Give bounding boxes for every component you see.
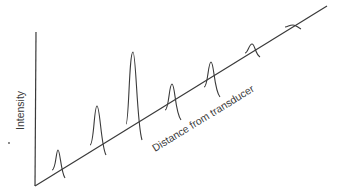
echo-peak-4 xyxy=(165,84,181,120)
stray-mark xyxy=(8,142,10,144)
echo-intensity-diagram: Intensity Distance from transducer xyxy=(0,0,338,193)
x-axis-label: Distance from transducer xyxy=(150,82,257,154)
echo-peak-5 xyxy=(204,62,220,97)
intensity-axis xyxy=(35,32,36,186)
y-axis-label: Intensity xyxy=(14,90,26,130)
echo-peak-3 xyxy=(126,52,142,140)
distance-axis xyxy=(35,6,327,186)
